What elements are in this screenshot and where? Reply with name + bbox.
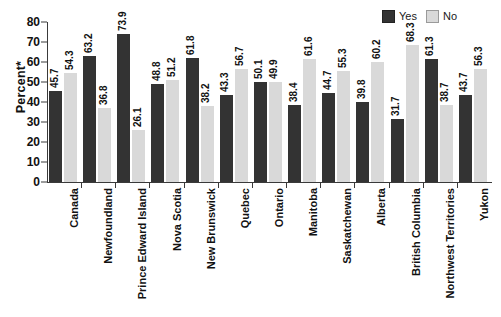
bar-value-label: 56.7 [235, 46, 245, 65]
bar-value-label: 39.8 [357, 80, 367, 99]
x-axis-category-label: Nova Scotia [172, 188, 183, 251]
bar-value-label: 31.7 [391, 96, 401, 115]
y-axis-tick-label: 80 [27, 15, 40, 29]
bar-no: 56.3 [474, 69, 487, 182]
bar-value-label: 26.1 [133, 107, 143, 126]
bar-group: 39.860.2 [354, 22, 388, 182]
bar-no: 56.7 [235, 69, 248, 182]
x-axis-line [47, 182, 492, 183]
bar-value-label: 54.3 [65, 51, 75, 70]
bar-value-label: 73.9 [118, 12, 128, 31]
bar-value-label: 68.3 [406, 23, 416, 42]
bar-yes: 61.3 [425, 59, 438, 182]
legend-label-no: No [443, 11, 457, 22]
bar-yes: 38.4 [288, 105, 301, 182]
bar-no: 49.9 [269, 82, 282, 182]
y-axis-tick-label: 70 [27, 35, 40, 49]
bar-no: 55.3 [337, 71, 350, 182]
plot-area: 45.754.363.236.873.926.148.851.261.838.2… [47, 22, 491, 182]
bar-no: 61.6 [303, 59, 316, 182]
bar-group: 31.768.3 [389, 22, 423, 182]
bar-yes: 43.3 [220, 95, 233, 182]
bar-value-label: 45.7 [50, 68, 60, 87]
bar-yes: 43.7 [459, 95, 472, 182]
bar-value-label: 60.2 [372, 39, 382, 58]
bar-yes: 73.9 [117, 34, 130, 182]
bar-group: 63.236.8 [81, 22, 115, 182]
y-axis-tick-label: 10 [27, 155, 40, 169]
bar-group: 44.755.3 [320, 22, 354, 182]
x-axis-category-label: British Columbia [411, 188, 422, 276]
x-axis-category-label: Prince Edward Island [137, 188, 148, 299]
bar-group: 50.149.9 [252, 22, 286, 182]
bar-yes: 61.8 [186, 58, 199, 182]
bar-value-label: 51.2 [167, 57, 177, 76]
bar-yes: 44.7 [322, 93, 335, 182]
bar-value-label: 43.3 [220, 73, 230, 92]
bar-group: 45.754.3 [47, 22, 81, 182]
bar-yes: 31.7 [391, 119, 404, 182]
bar-yes: 45.7 [49, 91, 62, 182]
y-axis-tick-label: 40 [27, 95, 40, 109]
bar-group: 38.461.6 [286, 22, 320, 182]
bar-value-label: 38.4 [289, 83, 299, 102]
bar-group: 43.756.3 [457, 22, 491, 182]
bar-yes: 63.2 [83, 56, 96, 182]
bar-no: 51.2 [166, 80, 179, 182]
bar-no: 54.3 [64, 73, 77, 182]
x-axis-category-labels: CanadaNewfoundlandPrince Edward IslandNo… [47, 188, 491, 313]
y-axis-tick-label: 60 [27, 55, 40, 69]
bar-value-label: 44.7 [323, 70, 333, 89]
bar-value-label: 61.3 [425, 37, 435, 56]
bar-value-label: 38.2 [201, 83, 211, 102]
bar-group: 48.851.2 [149, 22, 183, 182]
bar-value-label: 43.7 [459, 72, 469, 91]
bar-value-label: 56.3 [474, 47, 484, 66]
legend-label-yes: Yes [399, 11, 417, 22]
bar-value-label: 61.8 [186, 36, 196, 55]
bar-no: 68.3 [406, 45, 419, 182]
bar-value-label: 38.7 [440, 82, 450, 101]
bar-group: 43.356.7 [218, 22, 252, 182]
y-axis-tick-label: 20 [27, 135, 40, 149]
bar-value-label: 63.2 [84, 33, 94, 52]
y-axis-tick-label: 30 [27, 115, 40, 129]
bar-yes: 48.8 [151, 84, 164, 182]
bar-no: 26.1 [132, 130, 145, 182]
bar-group: 61.838.2 [184, 22, 218, 182]
x-axis-category-label: Newfoundland [103, 188, 114, 264]
x-axis-category-label: Yukon [479, 188, 490, 221]
x-axis-category-label: Northwest Territories [445, 188, 456, 298]
bar-yes: 50.1 [254, 82, 267, 182]
y-axis-tick-label: 50 [27, 75, 40, 89]
y-axis-tick-label: 0 [33, 175, 40, 189]
bar-yes: 39.8 [356, 102, 369, 182]
x-axis-category-label: Quebec [240, 188, 251, 228]
x-axis-category-label: Canada [69, 188, 80, 228]
bar-value-label: 61.6 [304, 36, 314, 55]
bar-group: 61.338.7 [423, 22, 457, 182]
x-axis-category-label: Alberta [376, 188, 387, 226]
bar-value-label: 48.8 [152, 62, 162, 81]
bar-value-label: 55.3 [338, 49, 348, 68]
bar-group: 73.926.1 [115, 22, 149, 182]
bar-no: 38.7 [440, 105, 453, 182]
x-axis-category-label: Saskatchewan [342, 188, 353, 264]
bar-no: 36.8 [98, 108, 111, 182]
x-axis-category-label: New Brunswick [206, 188, 217, 269]
bar-no: 60.2 [371, 62, 384, 182]
y-axis-ticks: 01020304050607080 [0, 0, 48, 317]
footnote-clipped [22, 309, 222, 317]
x-axis-category-label: Ontario [274, 188, 285, 227]
bar-value-label: 49.9 [269, 60, 279, 79]
bar-value-label: 50.1 [254, 59, 264, 78]
bar-chart: Yes No Percent* 01020304050607080 45.754… [0, 0, 501, 317]
bar-value-label: 36.8 [99, 86, 109, 105]
bar-no: 38.2 [201, 106, 214, 182]
x-axis-category-label: Manitoba [308, 188, 319, 236]
